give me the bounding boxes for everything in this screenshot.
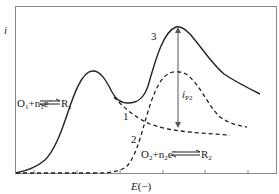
reaction-1-label: O1+n1e− R1 <box>17 97 72 111</box>
curve-3-label: 3 <box>151 30 157 42</box>
svg-text:O2+n2e−: O2+n2e− <box>141 148 177 162</box>
curve-2-label: 2 <box>131 133 137 145</box>
svg-text:R1: R1 <box>61 97 72 111</box>
reaction-2-label: O2+n2e− R2 <box>141 148 212 162</box>
curve-1-label: 1 <box>123 110 129 122</box>
curve-3-solid <box>16 27 260 173</box>
svg-text:R2: R2 <box>201 148 212 162</box>
curve-2-dashed <box>16 72 247 173</box>
y-axis-label: i <box>4 24 7 36</box>
voltammogram-figure: i 3 1 2 iP2 O1+n1e− R1 O2+n2e− <box>0 0 279 194</box>
x-axis-label: E(−) <box>130 180 152 193</box>
ip2-label: iP2 <box>182 88 193 102</box>
